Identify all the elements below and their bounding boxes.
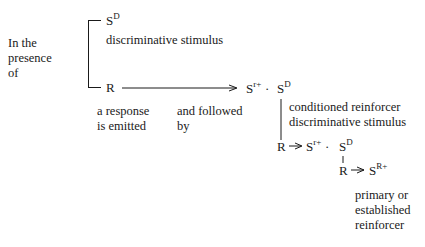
arrow-label-line1: and followed xyxy=(177,104,243,119)
step1-label-line2: discriminative stimulus xyxy=(289,115,406,130)
conditioned-reinforcer-symbol-1: Sr+ xyxy=(246,81,261,96)
r1-label-line2: is emitted xyxy=(97,119,146,134)
sd-symbol-2: SD xyxy=(339,139,353,154)
arrow-label-line2: by xyxy=(177,119,190,134)
final-label-line2: established xyxy=(355,203,411,218)
response-r3: R xyxy=(339,163,348,178)
final-label-line3: reinforcer xyxy=(355,218,404,233)
final-label-line1: primary or xyxy=(355,188,408,203)
response-r2: R xyxy=(277,139,286,154)
dot-operator-2: · xyxy=(325,139,329,154)
step1-label-line1: conditioned reinforcer xyxy=(289,100,400,115)
primary-reinforcer-symbol: SR+ xyxy=(369,163,387,178)
conditioned-reinforcer-symbol-2: Sr+ xyxy=(306,139,321,154)
r1-label-line1: a response xyxy=(97,104,149,119)
dot-operator-1: · xyxy=(265,81,269,96)
sd-symbol-1: SD xyxy=(277,81,291,96)
